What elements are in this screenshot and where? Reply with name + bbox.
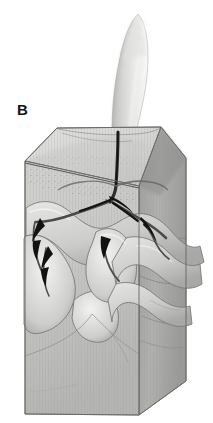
figure-panel-b: B xyxy=(0,0,213,423)
block-diagram-illustration xyxy=(0,0,213,423)
panel-label-b: B xyxy=(17,102,28,118)
